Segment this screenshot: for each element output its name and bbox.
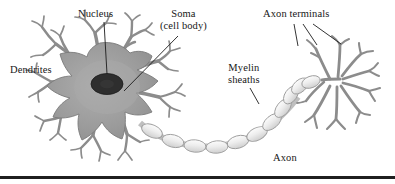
label-myelin-sheaths: Myelin sheaths [228,62,260,85]
leader-line-axon-terminal-3 [313,24,341,44]
label-soma-line2: (cell body) [160,20,207,32]
myelin-segment [206,140,229,154]
label-soma: Soma (cell body) [160,8,207,31]
label-nucleus: Nucleus [78,8,113,20]
bottom-divider-rule [0,176,395,179]
neuron-anatomy-diagram: Nucleus Soma (cell body) Dendrites Myeli… [0,0,395,184]
myelin-segment [184,139,207,153]
label-myelin-line1: Myelin [228,62,260,74]
leader-line-myelin [250,88,259,104]
label-axon-terminals: Axon terminals [263,8,329,20]
label-soma-line1: Soma [160,8,207,20]
axon-myelin-sheaths [139,73,321,154]
label-dendrites: Dendrites [10,64,52,76]
leader-line-axon-terminal-1 [294,24,298,46]
label-axon: Axon [273,152,297,164]
label-myelin-line2: sheaths [228,74,260,86]
myelin-segment [161,132,185,149]
